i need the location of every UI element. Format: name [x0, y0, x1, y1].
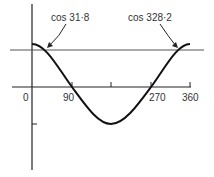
x-tick-label-270: 270 — [149, 92, 166, 103]
x-tick-label-90: 90 — [63, 92, 74, 103]
annotation-cos-328-2: cos 328·2 — [128, 12, 172, 23]
plot-area — [0, 0, 214, 177]
cosine-graph: cos 31·8 cos 328·2 0 90 270 360 — [0, 0, 214, 177]
x-tick-label-360: 360 — [182, 92, 199, 103]
x-tick-label-0: 0 — [23, 92, 29, 103]
arrow-left — [49, 24, 66, 46]
annotation-cos-31-8: cos 31·8 — [51, 12, 89, 23]
arrow-right-head — [172, 42, 178, 48]
arrow-right — [160, 24, 176, 46]
